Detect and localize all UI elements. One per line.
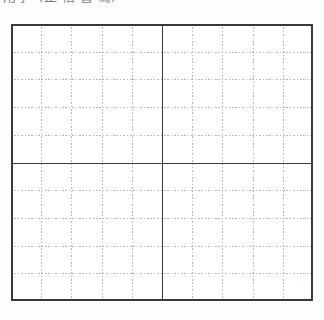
heading-clip-region: 用字（正 楷 書 寫） (0, 0, 324, 9)
practice-grid (11, 24, 313, 301)
page-title: 用字（正 楷 書 寫） (3, 0, 125, 4)
worksheet-page: 用字（正 楷 書 寫） (0, 0, 324, 320)
scan-speckle (76, 16, 78, 18)
scan-speckle (250, 308, 253, 310)
grid-canvas (11, 24, 313, 301)
